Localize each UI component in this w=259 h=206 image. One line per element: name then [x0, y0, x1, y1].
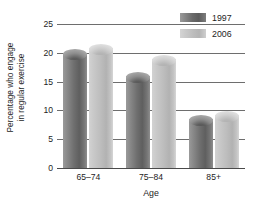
bar-group — [63, 24, 113, 168]
legend-item-2006: 2006 — [180, 27, 254, 40]
bar-body — [63, 53, 87, 168]
y-axis-title-line1: Percentage who engage — [7, 43, 18, 133]
bar-body — [89, 48, 113, 168]
bar-top-cap — [63, 49, 87, 60]
x-tick-label-65–74: 65–74 — [76, 172, 100, 182]
y-tick-label-20: 20 — [43, 48, 53, 58]
gridline-0: 0 — [57, 168, 245, 169]
bar-group — [189, 24, 239, 168]
bar-body — [152, 59, 176, 168]
bar-chart: Percentage who engage in regular exercis… — [0, 0, 259, 206]
legend-label-2006: 2006 — [212, 29, 232, 39]
y-tick-label-15: 15 — [43, 77, 53, 87]
bar-top-cap — [189, 115, 213, 126]
x-tick-label-85+: 85+ — [206, 172, 221, 182]
bar-1997-85+ — [189, 119, 213, 168]
plot-area: 0510152025 — [57, 24, 245, 168]
y-axis-title: Percentage who engage in regular exercis… — [0, 0, 34, 175]
bar-2006-75–84 — [152, 59, 176, 168]
legend-swatch-1997 — [180, 13, 206, 22]
y-tick-label-0: 0 — [48, 163, 53, 173]
x-tick-label-75–84: 75–84 — [139, 172, 163, 182]
bar-body — [189, 119, 213, 168]
bar-2006-85+ — [215, 115, 239, 168]
x-axis-tick-labels: 65–7475–8485+ — [57, 172, 245, 186]
y-axis-title-line2: in regular exercise — [17, 43, 28, 133]
legend-item-1997: 1997 — [180, 11, 254, 24]
y-tick-label-10: 10 — [43, 105, 53, 115]
x-axis-title: Age — [57, 188, 245, 198]
legend-label-1997: 1997 — [212, 13, 232, 23]
bar-body — [126, 76, 150, 168]
bar-1997-65–74 — [63, 53, 87, 168]
bar-1997-75–84 — [126, 76, 150, 168]
y-tick-label-5: 5 — [48, 134, 53, 144]
bar-top-cap — [152, 55, 176, 66]
legend-swatch-2006 — [180, 29, 206, 38]
bar-top-cap — [126, 72, 150, 83]
y-tick-label-25: 25 — [43, 19, 53, 29]
bar-group — [126, 24, 176, 168]
legend: 1997 2006 — [180, 11, 254, 43]
bar-body — [215, 115, 239, 168]
bar-top-cap — [215, 111, 239, 122]
bar-series-container — [57, 24, 245, 168]
bar-2006-65–74 — [89, 48, 113, 168]
